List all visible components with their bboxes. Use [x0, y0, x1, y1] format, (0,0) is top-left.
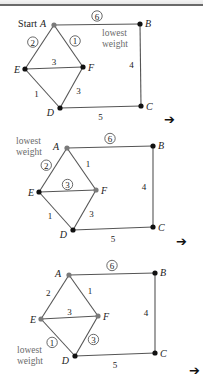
- edge-weight-DC: 5: [111, 234, 116, 244]
- vertex-label-F: F: [100, 185, 108, 196]
- edge-weight-AF: 1: [88, 286, 93, 296]
- start-label: Start: [18, 18, 37, 29]
- vertex-B: [152, 270, 157, 275]
- edge-DC: [60, 106, 141, 108]
- edge-weight-BC: 4: [142, 182, 147, 192]
- vertex-B: [150, 143, 155, 148]
- edge-AB: [69, 273, 155, 275]
- svg-text:3: 3: [91, 335, 96, 345]
- edge-DC: [73, 227, 153, 230]
- edge-BC: [140, 24, 141, 106]
- edge-weight-FD: 3: [88, 334, 98, 345]
- edge-AE: [25, 25, 54, 69]
- svg-text:weight: weight: [17, 356, 43, 366]
- svg-text:1: 1: [34, 89, 39, 99]
- edge-AF: [69, 275, 98, 316]
- edge-weight-AE: 2: [46, 288, 51, 298]
- vertex-F: [95, 313, 100, 318]
- edge-weight-DC: 5: [113, 360, 118, 370]
- vertex-label-F: F: [87, 62, 95, 73]
- edge-DC: [75, 353, 155, 356]
- svg-text:1: 1: [73, 36, 78, 46]
- svg-text:1: 1: [88, 286, 93, 296]
- edge-EF: [25, 67, 83, 69]
- next-step-arrow-icon: ➔: [189, 364, 200, 377]
- vertex-E: [36, 189, 41, 194]
- vertex-A: [51, 22, 56, 27]
- edge-EF: [39, 190, 96, 192]
- svg-text:3: 3: [52, 57, 57, 67]
- edge-weight-EF: 3: [67, 307, 72, 317]
- svg-text:6: 6: [95, 12, 100, 22]
- edge-weight-DC: 5: [98, 112, 103, 122]
- vertex-label-E: E: [13, 64, 20, 75]
- vertex-E: [22, 66, 27, 71]
- next-step-arrow-icon: ➔: [176, 235, 187, 248]
- vertex-label-B: B: [160, 267, 166, 278]
- svg-text:2: 2: [44, 161, 49, 171]
- edge-weight-AB: 6: [92, 11, 102, 22]
- edge-ED: [39, 192, 73, 230]
- edge-weight-EF: 3: [62, 179, 72, 190]
- vertex-F: [80, 64, 85, 69]
- vertex-A: [64, 145, 69, 150]
- edge-weight-EF: 3: [52, 57, 57, 67]
- svg-text:3: 3: [67, 307, 72, 317]
- vertex-label-F: F: [102, 311, 110, 322]
- edge-ED: [25, 69, 60, 108]
- svg-text:6: 6: [108, 134, 113, 144]
- svg-text:1: 1: [48, 211, 53, 221]
- svg-text:weight: weight: [16, 147, 42, 157]
- svg-text:lowest: lowest: [17, 345, 42, 355]
- vertex-label-B: B: [158, 140, 164, 151]
- svg-text:4: 4: [144, 308, 149, 318]
- edge-AB: [67, 146, 153, 148]
- svg-text:1: 1: [86, 159, 91, 169]
- svg-text:5: 5: [111, 234, 116, 244]
- edge-weight-FD: 3: [76, 86, 81, 96]
- vertex-D: [70, 227, 75, 232]
- vertex-label-E: E: [27, 187, 34, 198]
- svg-text:5: 5: [113, 360, 118, 370]
- vertex-C: [138, 103, 143, 108]
- edge-weight-BC: 4: [144, 308, 149, 318]
- svg-text:3: 3: [76, 86, 81, 96]
- vertex-label-D: D: [46, 107, 55, 118]
- vertex-D: [57, 105, 62, 110]
- svg-text:2: 2: [31, 38, 36, 48]
- edge-weight-ED: 1: [48, 211, 53, 221]
- vertex-label-A: A: [52, 141, 60, 152]
- edge-weight-AB: 6: [107, 260, 117, 271]
- svg-text:lowest: lowest: [16, 136, 41, 146]
- vertex-label-C: C: [158, 222, 165, 233]
- vertex-label-A: A: [39, 18, 47, 29]
- vertex-A: [66, 272, 71, 277]
- vertex-label-B: B: [145, 18, 151, 29]
- svg-text:3: 3: [65, 180, 70, 190]
- svg-text:weight: weight: [102, 39, 128, 49]
- vertex-C: [150, 224, 155, 229]
- edge-weight-AB: 6: [105, 133, 115, 144]
- svg-text:2: 2: [46, 288, 51, 298]
- svg-text:1: 1: [50, 338, 55, 348]
- svg-text:5: 5: [98, 112, 103, 122]
- vertex-label-C: C: [160, 348, 167, 359]
- vertex-B: [137, 21, 142, 26]
- edge-weight-ED: 1: [47, 337, 57, 348]
- vertex-D: [72, 353, 77, 358]
- next-step-arrow-icon: ➔: [164, 113, 175, 126]
- vertex-label-C: C: [146, 101, 153, 112]
- vertex-F: [93, 187, 98, 192]
- edge-weight-AE: 2: [28, 37, 38, 48]
- svg-text:lowest: lowest: [102, 28, 127, 38]
- edge-ED: [41, 319, 75, 356]
- edge-weight-BC: 4: [129, 60, 134, 70]
- graph-panel-step-3: 62131354ABCDEFlowestweight: [0, 255, 203, 383]
- edge-weight-AF: 1: [86, 159, 91, 169]
- edge-weight-AF: 1: [70, 36, 80, 47]
- vertex-E: [38, 316, 43, 321]
- edge-weight-AE: 2: [41, 160, 51, 171]
- vertex-label-A: A: [54, 268, 62, 279]
- graph-panel-step-2: 62131354ABCDEFlowestweight: [0, 130, 203, 255]
- vertex-label-D: D: [59, 229, 68, 240]
